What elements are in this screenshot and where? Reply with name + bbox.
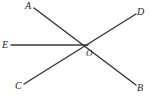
point-label-e: E <box>2 40 8 50</box>
point-label-c: C <box>15 81 22 91</box>
point-label-a: A <box>25 1 31 11</box>
point-label-b: B <box>137 83 143 93</box>
point-label-o: O <box>86 48 93 58</box>
geometry-canvas <box>0 0 149 97</box>
point-label-d: D <box>137 7 144 17</box>
geometry-figure: A D E O C B <box>0 0 149 97</box>
line-segment-cd <box>24 14 136 84</box>
